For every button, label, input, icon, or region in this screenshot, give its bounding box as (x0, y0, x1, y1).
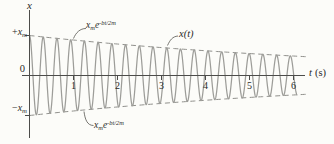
lower-envelope-curve (30, 94, 307, 115)
origin-text: 0 (20, 63, 25, 74)
origin-label: 0 (8, 63, 25, 75)
curve-label-leader-line (168, 36, 179, 46)
plot-canvas: 123456 (0, 0, 334, 144)
x-tick-label-5: 5 (247, 80, 252, 91)
curve-label: x(t) (179, 28, 194, 40)
x-tick-label-4: 4 (203, 80, 208, 91)
curve-label-text: x(t) (179, 28, 194, 39)
x-tick-label-2: 2 (115, 80, 120, 91)
lower-envelope-label: xme-bt/2m (94, 119, 124, 131)
y-axis-label-text: x (27, 0, 32, 11)
damped-oscillation-figure: 123456 x +xm 0 −xm t(s) xme-bt/2m x(t) x… (0, 0, 334, 144)
y-axis-label: x (23, 0, 36, 11)
y-minus-xm-label: −xm (0, 102, 27, 115)
x-tick-label-6: 6 (291, 80, 296, 91)
x-axis-label: t(s) (309, 67, 326, 79)
y-plus-xm-label: +xm (0, 26, 27, 39)
x-axis-unit: (s) (315, 67, 326, 78)
envelope-exponent: -bt/2m (99, 19, 116, 26)
envelope-exponent: -bt/2m (107, 119, 124, 126)
y-plus-subscript: m (22, 31, 27, 38)
x-tick-label-1: 1 (71, 80, 76, 91)
x-axis-variable: t (309, 67, 312, 78)
y-minus-subscript: m (22, 107, 27, 114)
upper-envelope-label: xme-bt/2m (86, 19, 116, 31)
lower-envelope-leader-line (84, 112, 94, 126)
upper-envelope-leader-line (74, 29, 87, 39)
x-tick-label-3: 3 (159, 80, 164, 91)
